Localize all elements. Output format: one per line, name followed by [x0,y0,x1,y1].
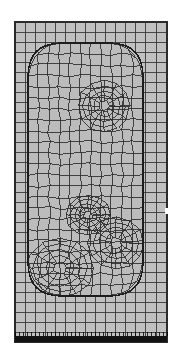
fixed-support-boundary-band [15,336,167,342]
right-edge-notch [165,208,169,214]
finite-element-mesh-figure [0,0,182,360]
mesh-figure-container [0,0,182,360]
